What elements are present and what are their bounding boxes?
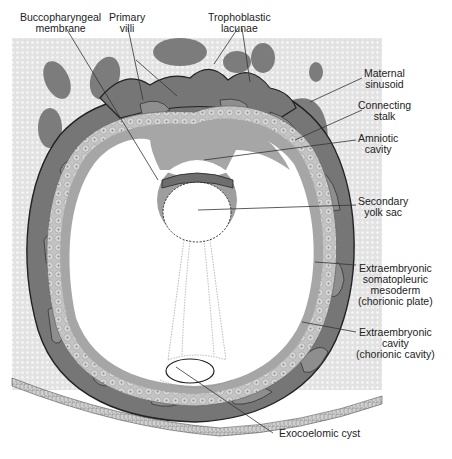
label-buccopharyngeal-membrane: Buccopharyngeal membrane <box>20 12 101 34</box>
label-line: yolk sac <box>358 207 408 218</box>
label-trophoblastic-lacunae: Trophoblastic lacunae <box>208 12 271 34</box>
label-primary-villi: Primary villi <box>109 12 145 34</box>
label-connecting-stalk: Connecting stalk <box>358 100 411 122</box>
label-line: villi <box>109 23 145 34</box>
label-secondary-yolk-sac: Secondary yolk sac <box>358 196 408 218</box>
label-line: Exocoelomic cyst <box>279 428 360 439</box>
label-extraembryonic-mesoderm: Extraembryonic somatopleuric mesoderm (c… <box>358 263 433 307</box>
label-line: sinusoid <box>364 79 405 90</box>
label-amniotic-cavity: Amniotic cavity <box>358 133 398 155</box>
label-line: lacunae <box>208 23 271 34</box>
label-line: (chorionic cavity) <box>356 349 435 360</box>
label-line: cavity <box>358 144 398 155</box>
label-line: (chorionic plate) <box>358 296 433 307</box>
label-extraembryonic-cavity: Extraembryonic cavity (chorionic cavity) <box>356 327 435 360</box>
exocoelomic-cyst <box>166 359 214 383</box>
yolk-sac-and-amnion <box>157 160 237 242</box>
label-line: membrane <box>20 23 101 34</box>
label-maternal-sinusoid: Maternal sinusoid <box>364 68 405 90</box>
label-exocoelomic-cyst: Exocoelomic cyst <box>279 428 360 439</box>
label-line: stalk <box>358 111 411 122</box>
